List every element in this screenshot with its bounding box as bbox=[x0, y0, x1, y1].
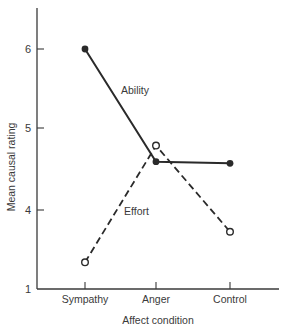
y-tick-1: 1 bbox=[25, 283, 31, 295]
y-tick-group: 6 5 4 1 bbox=[25, 43, 44, 295]
line-chart: 6 5 4 1 Sympathy Anger Control Affect co… bbox=[0, 0, 288, 332]
effort-point-control bbox=[227, 228, 234, 235]
effort-label: Effort bbox=[124, 205, 149, 217]
y-tick-6: 6 bbox=[25, 43, 31, 55]
x-tick-anger: Anger bbox=[142, 293, 171, 305]
y-tick-4: 4 bbox=[25, 204, 31, 216]
x-tick-control: Control bbox=[213, 293, 247, 305]
effort-point-sympathy bbox=[82, 259, 89, 266]
x-tick-group: Sympathy Anger Control bbox=[62, 282, 247, 305]
ability-label: Ability bbox=[121, 84, 150, 96]
effort-point-anger bbox=[153, 142, 160, 149]
ability-point-anger bbox=[153, 158, 160, 165]
ability-point-sympathy bbox=[82, 46, 89, 53]
ability-point-control bbox=[227, 160, 234, 167]
x-tick-sympathy: Sympathy bbox=[62, 293, 109, 305]
y-tick-5: 5 bbox=[25, 122, 31, 134]
x-axis-title: Affect condition bbox=[122, 314, 194, 326]
y-axis-title: Mean causal rating bbox=[5, 122, 17, 211]
chart-canvas: 6 5 4 1 Sympathy Anger Control Affect co… bbox=[0, 0, 288, 332]
